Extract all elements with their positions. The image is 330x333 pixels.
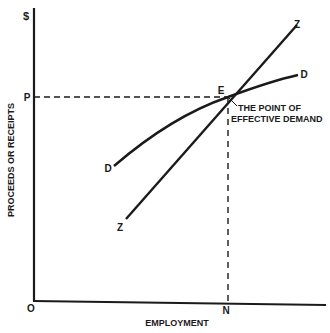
intersection-e-label: E (218, 85, 225, 96)
demand-end-label: D (300, 69, 307, 80)
origin-label: O (27, 303, 35, 314)
y-axis-label: PROCEEDS OR RECEIPTS (6, 103, 16, 217)
y-tick-p-label: P (24, 92, 31, 103)
supply-end-label: Z (294, 19, 300, 30)
demand-start-label: D (104, 163, 111, 174)
annotation-line-1: THE POINT OF (238, 103, 302, 113)
y-axis-unit-label: $ (23, 10, 29, 22)
x-axis-line (33, 301, 326, 305)
x-axis-label: EMPLOYMENT (145, 318, 209, 328)
effective-demand-diagram: $ P PROCEEDS OR RECEIPTS O N EMPLOYMENT … (0, 0, 330, 333)
supply-start-label: Z (117, 222, 123, 233)
x-tick-n-label: N (222, 305, 229, 316)
annotation-line-2: EFFECTIVE DEMAND (231, 114, 323, 124)
